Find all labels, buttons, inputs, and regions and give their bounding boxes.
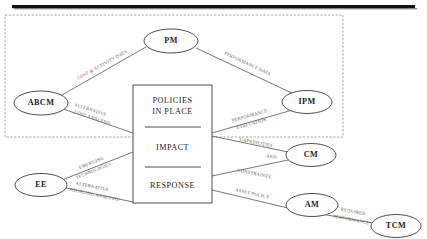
node-ee[interactable]: EE	[15, 174, 67, 197]
node-abcm[interactable]: ABCM	[14, 91, 68, 115]
node-abcm-label: ABCM	[28, 98, 55, 107]
node-am[interactable]: AM	[286, 194, 338, 217]
center-box-policies-line2: IN PLACE	[152, 107, 193, 116]
edge-label-and: AND	[266, 153, 278, 160]
flow-diagram: POLICIES IN PLACE IMPACT RESPONSE PM ABC…	[0, 0, 427, 239]
diagram-canvas: POLICIES IN PLACE IMPACT RESPONSE PM ABC…	[0, 0, 427, 239]
node-cm[interactable]: CM	[286, 144, 336, 167]
node-tcm-label: TCM	[386, 221, 406, 230]
node-tcm[interactable]: TCM	[371, 215, 421, 238]
node-ipm[interactable]: IPM	[282, 91, 332, 114]
node-group: PM ABCM IPM CM EE AM	[14, 29, 421, 238]
center-box-impact: IMPACT	[156, 143, 189, 152]
top-rule-bar	[12, 5, 415, 8]
node-pm[interactable]: PM	[144, 29, 198, 53]
edge-label-constraints: CONSTRAINTS	[237, 168, 272, 180]
node-cm-label: CM	[304, 150, 318, 159]
center-box-response: RESPONSE	[150, 181, 195, 190]
node-am-label: AM	[305, 200, 319, 209]
center-box-policies-line1: POLICIES	[153, 96, 193, 105]
center-box-group: POLICIES IN PLACE IMPACT RESPONSE	[133, 85, 212, 203]
node-pm-label: PM	[164, 36, 178, 45]
edge-label-capabilities: CAPABILITIES	[239, 137, 273, 149]
edge-label-performance-data: PERFORMANCE DATA	[223, 51, 272, 77]
node-ee-label: EE	[35, 180, 47, 189]
edge-label-cost-activity-data: COST & ACTIVITY DATA	[76, 49, 128, 81]
node-ipm-label: IPM	[298, 97, 315, 106]
top-rule-shadow	[14, 8, 417, 9]
edge-label-asset-policy: ASSET POLICY	[235, 187, 270, 200]
